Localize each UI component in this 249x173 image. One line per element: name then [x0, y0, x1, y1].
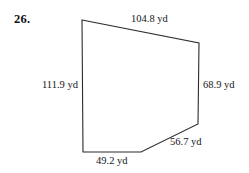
problem-figure-page: 26. 104.8 yd 68.9 yd 56.7 yd 49.2 yd 111… — [0, 0, 249, 173]
side-label-bottom: 49.2 yd — [96, 156, 128, 167]
side-label-left: 111.9 yd — [42, 80, 78, 91]
side-label-top: 104.8 yd — [131, 14, 168, 25]
polygon-outline — [82, 20, 199, 152]
side-label-lower-right: 56.7 yd — [170, 137, 202, 148]
side-label-right: 68.9 yd — [203, 80, 235, 91]
